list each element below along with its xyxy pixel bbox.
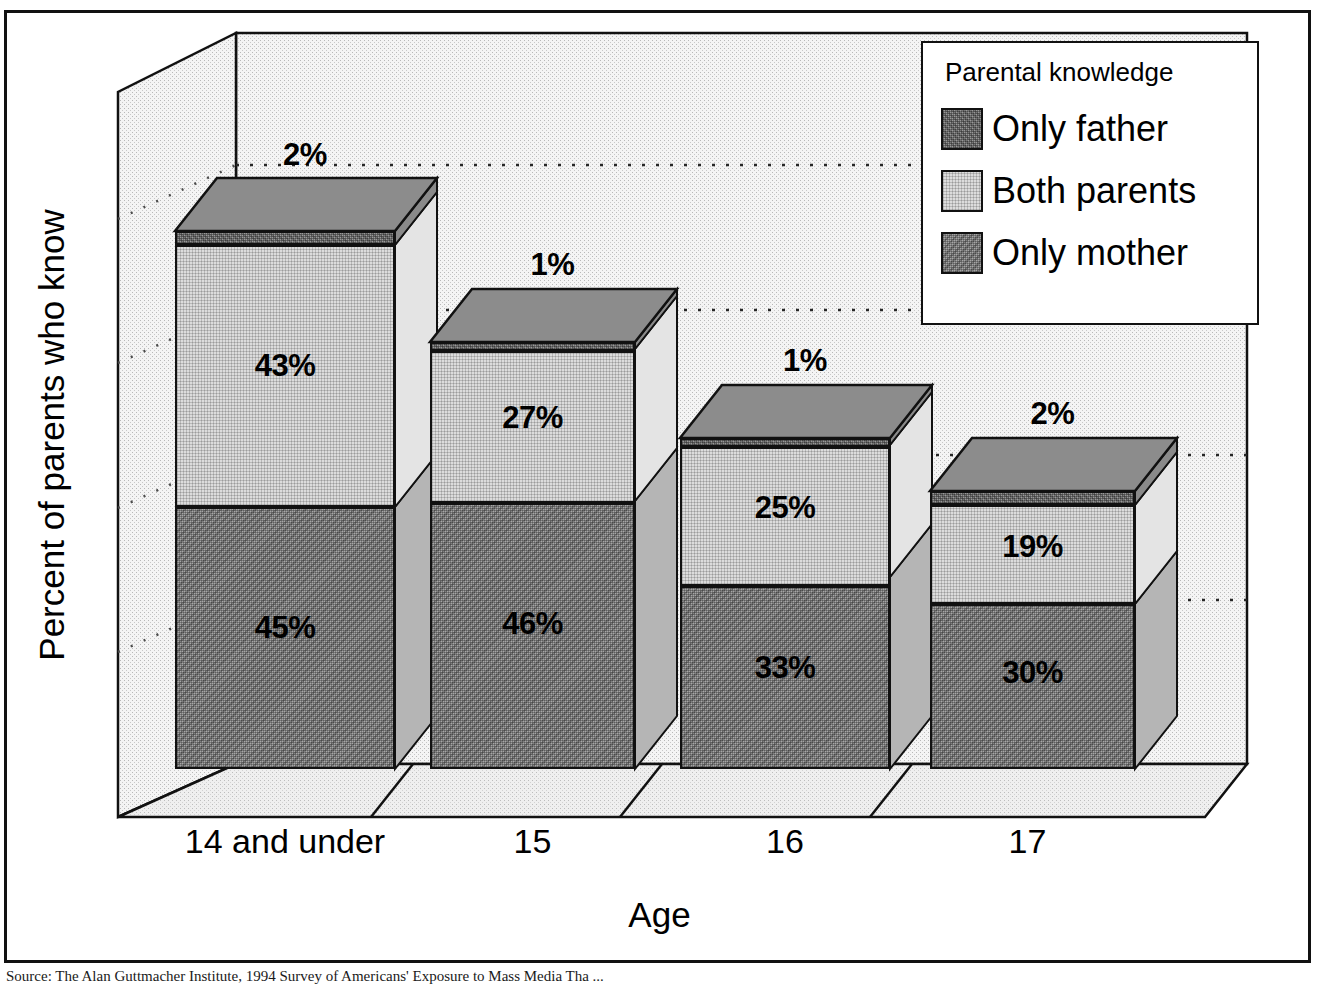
- x-tick-16: 16: [680, 822, 890, 861]
- segment-both-parents[interactable]: 43%: [175, 245, 395, 507]
- segment-only-father[interactable]: [680, 438, 890, 447]
- segment-only-father[interactable]: [430, 342, 635, 351]
- x-tick-17: 17: [925, 822, 1130, 861]
- swatch-only-mother-icon: [941, 232, 983, 274]
- segment-only-mother[interactable]: 45%: [175, 507, 395, 769]
- segment-label-both-parents: 43%: [177, 348, 393, 384]
- segment-label-both-parents: 27%: [432, 400, 633, 436]
- y-axis-title: Percent of parents who know: [32, 155, 72, 715]
- segment-both-parents[interactable]: 27%: [430, 351, 635, 503]
- segment-label-only-mother: 45%: [177, 610, 393, 646]
- segment-label-only-father: 1%: [450, 247, 655, 283]
- legend-item-both-parents[interactable]: Both parents: [941, 160, 1257, 222]
- x-tick-15: 15: [430, 822, 635, 861]
- swatch-both-parents-icon: [941, 170, 983, 212]
- bar-16[interactable]: 25% 33%: [680, 438, 890, 769]
- segment-label-only-mother: 33%: [682, 650, 888, 686]
- segment-only-father[interactable]: [930, 491, 1135, 505]
- segment-label-both-parents: 25%: [682, 490, 888, 526]
- legend: Parental knowledge Only father Both pare…: [921, 41, 1259, 325]
- chart-figure: 43% 45% 2% 27% 46% 1% 25% 33%: [0, 0, 1319, 987]
- legend-label-only-mother: Only mother: [992, 235, 1188, 271]
- legend-item-only-father[interactable]: Only father: [941, 98, 1257, 160]
- bar-14-and-under[interactable]: 43% 45%: [175, 231, 395, 769]
- bar-15[interactable]: 27% 46%: [430, 342, 635, 769]
- legend-item-only-mother[interactable]: Only mother: [941, 222, 1257, 284]
- bar-17[interactable]: 19% 30%: [930, 491, 1135, 769]
- legend-title: Parental knowledge: [945, 57, 1257, 88]
- segment-both-parents[interactable]: 25%: [680, 447, 890, 586]
- legend-label-only-father: Only father: [992, 111, 1168, 147]
- source-caption: Source: The Alan Guttmacher Institute, 1…: [6, 968, 1306, 987]
- segment-label-both-parents: 19%: [932, 529, 1133, 565]
- segment-label-only-mother: 46%: [432, 606, 633, 642]
- segment-label-only-father: 2%: [950, 396, 1155, 432]
- segment-only-mother[interactable]: 33%: [680, 586, 890, 769]
- segment-only-mother[interactable]: 46%: [430, 503, 635, 769]
- segment-only-father[interactable]: [175, 231, 395, 245]
- legend-label-both-parents: Both parents: [992, 173, 1196, 209]
- segment-label-only-father: 2%: [195, 137, 415, 173]
- segment-both-parents[interactable]: 19%: [930, 505, 1135, 604]
- segment-label-only-mother: 30%: [932, 655, 1133, 691]
- x-tick-14-and-under: 14 and under: [110, 822, 460, 861]
- segment-only-mother[interactable]: 30%: [930, 604, 1135, 769]
- swatch-only-father-icon: [941, 108, 983, 150]
- x-axis-title: Age: [0, 895, 1319, 935]
- segment-label-only-father: 1%: [700, 343, 910, 379]
